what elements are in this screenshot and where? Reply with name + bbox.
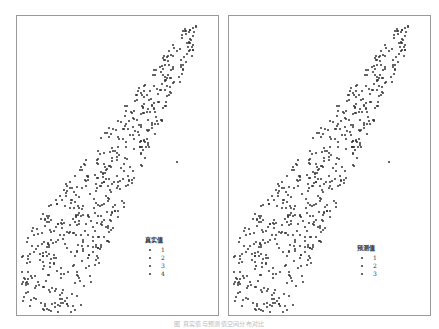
data-point	[234, 300, 236, 302]
data-point	[124, 115, 126, 117]
data-point	[390, 76, 392, 78]
data-point	[44, 305, 46, 307]
data-point	[258, 255, 260, 257]
data-point	[345, 138, 347, 140]
data-point	[104, 166, 106, 168]
data-point	[279, 271, 281, 273]
data-point	[265, 263, 267, 265]
data-point	[37, 281, 39, 283]
data-point	[281, 207, 283, 209]
data-point	[63, 189, 65, 191]
data-point	[306, 174, 308, 176]
data-point	[288, 271, 290, 273]
data-point	[121, 200, 123, 202]
data-point	[112, 128, 114, 130]
data-point	[301, 193, 303, 195]
data-point	[268, 270, 270, 272]
data-point	[365, 85, 367, 87]
data-point	[124, 105, 126, 107]
data-point	[137, 131, 139, 133]
data-point	[44, 225, 46, 227]
data-point	[120, 121, 122, 123]
data-point	[110, 214, 112, 216]
data-point	[282, 202, 284, 204]
data-point	[356, 157, 358, 159]
data-point	[315, 219, 317, 221]
data-point	[334, 128, 336, 130]
data-point	[344, 126, 346, 128]
data-point	[166, 85, 168, 87]
data-point	[299, 257, 301, 259]
data-point	[108, 136, 110, 138]
data-point	[27, 278, 29, 280]
data-point	[243, 277, 245, 279]
data-point	[169, 86, 171, 88]
data-point	[391, 48, 393, 50]
data-point	[52, 242, 54, 244]
data-point	[274, 302, 276, 304]
data-point	[31, 245, 33, 247]
data-point	[293, 260, 295, 262]
data-point	[146, 138, 148, 140]
data-point	[275, 234, 277, 236]
data-point	[77, 244, 79, 246]
data-point	[393, 37, 395, 39]
data-point	[319, 185, 321, 187]
data-point	[276, 205, 278, 207]
data-point	[368, 88, 370, 90]
data-point	[343, 179, 345, 181]
data-point	[267, 241, 269, 243]
data-point	[355, 112, 357, 114]
data-point	[322, 220, 324, 222]
data-point	[397, 33, 399, 35]
data-point	[125, 110, 127, 112]
data-point	[335, 206, 337, 208]
data-point	[42, 268, 44, 270]
data-point	[335, 163, 337, 165]
data-point	[164, 89, 166, 91]
data-point	[88, 265, 90, 267]
data-point	[319, 227, 321, 229]
data-point	[388, 50, 390, 52]
data-point	[99, 248, 101, 250]
legend-item: 3	[357, 270, 377, 278]
data-point	[116, 152, 118, 154]
data-point	[60, 267, 62, 269]
legend-title: 真实值	[145, 236, 165, 244]
data-point	[107, 197, 109, 199]
data-point	[239, 291, 241, 293]
data-point	[242, 275, 244, 277]
data-point	[252, 302, 254, 304]
data-point	[358, 94, 360, 96]
data-point	[345, 118, 347, 120]
data-point	[254, 213, 256, 215]
data-point	[356, 84, 358, 86]
data-point	[236, 278, 238, 280]
data-point	[247, 248, 249, 250]
data-point	[351, 146, 353, 148]
data-point	[80, 215, 82, 217]
data-point	[27, 255, 29, 257]
data-point	[330, 154, 332, 156]
legend-item: 4	[145, 270, 165, 278]
data-point	[369, 93, 371, 95]
data-point	[136, 94, 138, 96]
data-point	[149, 111, 151, 113]
data-point	[132, 126, 134, 128]
data-point	[292, 304, 294, 306]
data-point	[114, 204, 116, 206]
data-point	[82, 250, 84, 252]
data-point	[355, 96, 357, 98]
data-point	[78, 196, 80, 198]
data-point	[307, 244, 309, 246]
data-point	[27, 271, 29, 273]
data-point	[140, 92, 142, 94]
data-point	[142, 106, 144, 108]
data-point	[66, 303, 68, 305]
data-point	[51, 287, 53, 289]
data-point	[192, 27, 194, 29]
data-point	[329, 136, 331, 138]
data-point	[53, 230, 55, 232]
data-point	[322, 133, 324, 135]
data-point	[385, 47, 387, 49]
